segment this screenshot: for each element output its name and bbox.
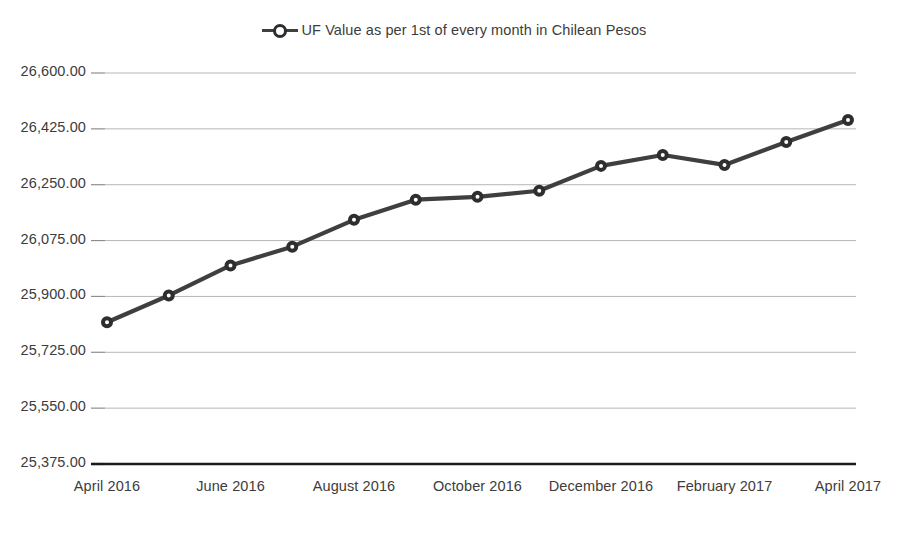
y-axis-tick-label: 26,600.00 (0, 63, 86, 79)
y-axis-tick-label: 25,375.00 (0, 454, 86, 470)
data-point-marker[interactable] (350, 216, 358, 224)
data-point-marker[interactable] (721, 161, 729, 169)
data-point-marker[interactable] (597, 162, 605, 170)
line-chart-plot (0, 0, 906, 533)
y-axis-tick-label: 25,725.00 (0, 342, 86, 358)
data-point-marker[interactable] (227, 261, 235, 269)
data-point-marker[interactable] (535, 187, 543, 195)
data-point-marker[interactable] (782, 138, 790, 146)
x-axis-tick-label: April 2017 (773, 478, 906, 494)
data-point-marker[interactable] (659, 151, 667, 159)
y-axis-tick-label: 25,900.00 (0, 286, 86, 302)
y-axis-tick-label: 25,550.00 (0, 398, 86, 414)
data-point-marker[interactable] (288, 243, 296, 251)
data-point-marker[interactable] (412, 196, 420, 204)
data-point-marker[interactable] (474, 193, 482, 201)
series-line (107, 120, 848, 322)
data-point-marker[interactable] (844, 116, 852, 124)
chart-container: UF Value as per 1st of every month in Ch… (0, 0, 906, 533)
y-axis-tick-label: 26,425.00 (0, 119, 86, 135)
y-axis-tick-label: 26,075.00 (0, 231, 86, 247)
y-axis-tick-label: 26,250.00 (0, 175, 86, 191)
data-point-marker[interactable] (165, 291, 173, 299)
data-point-marker[interactable] (103, 318, 111, 326)
